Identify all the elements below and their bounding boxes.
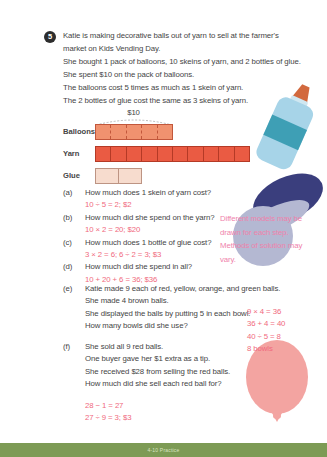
question-text: She displayed the balls by putting 5 in … (85, 308, 250, 320)
question-id: (d) (63, 261, 85, 273)
answers-e: 9 × 4 = 36 36 + 4 = 40 40 ÷ 5 = 8 8 bowl… (247, 306, 285, 356)
note-line: drawn for each step. (220, 226, 302, 240)
footer-label: 4-10 Practice (147, 447, 179, 453)
bar-row-label-yarn: Yarn (63, 146, 93, 161)
question-id: (b) (63, 212, 85, 224)
question-text: How much does 1 bottle of glue cost? (85, 237, 211, 249)
intro-line: The balloons cost 5 times as much as 1 s… (63, 81, 301, 94)
question-text: How much did she spend on the yarn? (85, 212, 215, 224)
note-line: Different models may be (220, 212, 302, 226)
problem-intro: Katie is making decorative balls out of … (63, 29, 301, 107)
question-id: (e) (63, 283, 85, 295)
intro-line: The 2 bottles of glue cost the same as 3… (63, 94, 301, 107)
answer-text: 10 ÷ 5 = 2; $2 (85, 199, 131, 211)
problem-number-badge: 5 (44, 31, 56, 43)
bar-balloons (95, 124, 173, 140)
intro-line: She bought 1 pack of balloons, 10 skeins… (63, 55, 301, 68)
question-text: She made 4 brown balls. (85, 295, 169, 307)
answer-text: 27 ÷ 9 = 3; $3 (85, 412, 131, 424)
question-text: She sold all 9 red balls. (85, 341, 163, 353)
intro-line: market on Kids Vending Day. (63, 42, 301, 55)
teacher-note: Different models may be drawn for each s… (220, 212, 302, 266)
question-text: How much did she sell each red ball for? (85, 378, 221, 390)
answer-text: 10 × 2 = 20; $20 (85, 224, 140, 236)
intro-line: She spent $10 on the pack of balloons. (63, 68, 301, 81)
answer-text: 36 + 4 = 40 (247, 318, 285, 330)
brace-label: $10 (95, 107, 172, 119)
question-f: (f)She sold all 9 red balls. One buyer g… (63, 341, 230, 391)
questions-a-d: (a)How much does 1 skein of yarn cost? 1… (63, 187, 215, 286)
question-id: (a) (63, 187, 85, 199)
question-text: One buyer gave her $1 extra as a tip. (85, 353, 210, 365)
answer-text: 9 × 4 = 36 (247, 306, 285, 318)
note-line: Methods of solution may (220, 239, 302, 253)
question-text: Katie made 9 each of red, yellow, orange… (85, 283, 280, 295)
answer-text: 40 ÷ 5 = 8 (247, 331, 285, 343)
question-text: She received $28 from selling the red ba… (85, 366, 230, 378)
answer-text: 28 − 1 = 27 (85, 400, 131, 412)
intro-line: Katie is making decorative balls out of … (63, 29, 301, 42)
bar-glue (95, 168, 142, 184)
answer-text: 8 bowls (247, 343, 285, 355)
answers-f: 28 − 1 = 27 27 ÷ 9 = 3; $3 (85, 400, 131, 425)
question-text: How much did she spend in all? (85, 261, 192, 273)
note-line: vary. (220, 253, 302, 267)
footer-bar: 4-10 Practice (0, 443, 327, 457)
question-id: (c) (63, 237, 85, 249)
answer-text: 3 × 2 = 6; 6 ÷ 2 = 3; $3 (85, 249, 161, 261)
question-text: How many bowls did she use? (85, 320, 188, 332)
question-id: (f) (63, 341, 85, 353)
question-text: How much does 1 skein of yarn cost? (85, 187, 211, 199)
bar-row-label-glue: Glue (63, 168, 93, 183)
worksheet-page: { "problem": { "number": "5", "intro_lin… (0, 0, 327, 457)
bar-row-label-balloons: Balloons (63, 124, 93, 139)
bar-yarn (95, 146, 250, 162)
